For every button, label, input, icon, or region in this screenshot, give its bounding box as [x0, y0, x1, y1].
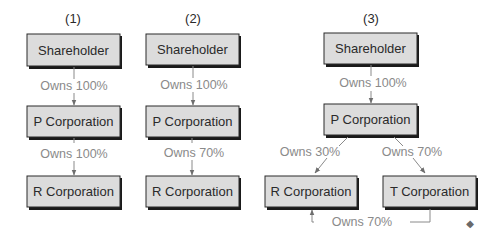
node-r-corporation: R Corporation — [146, 176, 241, 210]
node-t-corporation: T Corporation — [383, 176, 478, 210]
diagram-2: (2) Shareholder Owns 100% P Corporation … — [146, 11, 241, 210]
edge-label: Owns 70% — [332, 215, 392, 229]
node-shareholder: Shareholder — [324, 33, 419, 67]
edge-line — [339, 137, 348, 146]
diagram-1-header: (1) — [65, 11, 81, 26]
edge-label: Owns 100% — [40, 79, 107, 93]
edge-label: Owns 70% — [164, 146, 224, 160]
ownership-diagrams: (1) Shareholder Owns 100% P Corporation … — [0, 0, 496, 237]
edge-label: Owns 100% — [40, 147, 107, 161]
node-label: R Corporation — [152, 184, 233, 199]
node-label: R Corporation — [271, 184, 352, 199]
node-label: T Corporation — [390, 184, 469, 199]
node-r-corporation: R Corporation — [27, 176, 122, 210]
edge-label: Owns 100% — [339, 76, 406, 90]
edge-label: Owns 100% — [160, 78, 227, 92]
edge-line — [410, 209, 430, 222]
edge-arrow — [413, 158, 425, 173]
diagram-2-header: (2) — [185, 11, 201, 26]
node-r-corporation: R Corporation — [265, 176, 359, 210]
node-shareholder: Shareholder — [27, 34, 122, 69]
diagram-3-header: (3) — [363, 11, 379, 26]
diagram-3: (3) Shareholder Owns 100% P Corporation … — [265, 11, 478, 229]
node-p-corporation: P Corporation — [146, 106, 241, 140]
node-label: Shareholder — [38, 43, 109, 58]
node-label: P Corporation — [34, 114, 114, 129]
edge-label: Owns 70% — [382, 145, 442, 159]
node-p-corporation: P Corporation — [324, 104, 419, 138]
node-p-corporation: P Corporation — [27, 106, 122, 140]
diagram-1: (1) Shareholder Owns 100% P Corporation … — [27, 11, 122, 210]
end-marker-icon: ◆ — [466, 218, 474, 229]
node-label: P Corporation — [153, 114, 233, 129]
edge-arrow — [312, 210, 314, 222]
edge-label: Owns 30% — [280, 145, 340, 159]
edge-arrow — [315, 158, 327, 173]
node-shareholder: Shareholder — [146, 34, 241, 68]
node-label: P Corporation — [331, 112, 411, 127]
node-label: Shareholder — [157, 42, 228, 57]
node-label: R Corporation — [33, 184, 114, 199]
node-label: Shareholder — [335, 41, 406, 56]
